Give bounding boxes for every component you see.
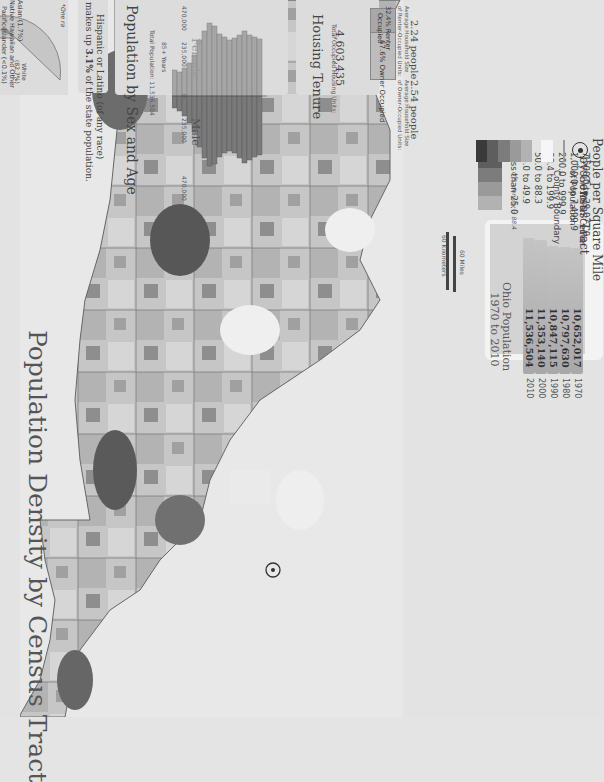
female-label: Female [189,38,202,79]
cleveland-metro [93,430,137,510]
rural-tract [230,470,270,505]
county-boundary-label: County Boundary [552,170,562,244]
pyramid-title: Population by Sex and Age [124,5,140,195]
pop-year-2010: 2010 [525,378,534,398]
pop-year-1970: 1970 [573,378,582,398]
pop-year-2000: 2000 [537,378,546,398]
pop-value-2010: 11,536,504 [524,308,535,368]
pop-year-1980: 1980 [561,378,570,398]
columbus-metro [150,204,210,276]
hispanic-text: Hispanic or Latino (of any race) makes u… [83,2,105,182]
race-footnote: *One ra [60,4,67,27]
mean-center-legend-icon [572,142,588,158]
swatch-200 [478,168,502,182]
rural-tract [220,305,280,355]
scale-km-label: 60 Kilometers [441,235,448,277]
swatch-88 [478,182,502,196]
white-label: White (82.7%) [14,60,28,84]
pop-value-1970: 10,652,017 [572,308,583,368]
pyramid-axis-470k-left: 470,000 [181,176,188,201]
pyramid-top-label: 85+ Years [161,42,168,72]
housing-total-value: 4,603,435 [333,30,346,86]
rural-tract [325,208,375,252]
pop-value-1990: 10,847,115 [548,308,559,368]
housing-title: Housing Tenure [310,14,325,119]
pop-value-1980: 10,797,630 [560,308,571,368]
us-density-note: U.S. density is 88.4 [511,172,518,230]
renter-size-value: 2.24 people [409,20,420,79]
pyramid-axis-235k-left: 235,000 [181,118,188,143]
pop-year-1990: 1990 [549,378,558,398]
map-title: Population Density by Census Tract [23,330,52,782]
mean-center-icon [266,563,280,577]
pyramid-axis-470k-right: 470,000 [181,6,188,31]
county-boundary-swatch [563,140,565,162]
male-label: Male [189,118,202,146]
scale-mi-bar [453,236,456,292]
owner-label: 67.6% Owner Occupied [378,40,386,122]
swatch-class-3 [498,140,509,162]
scale-mi-label: 60 Miles [459,250,466,275]
swatch-class-7 [541,140,553,162]
swatch-class-4 [510,140,521,162]
swatch-class-5 [521,140,532,162]
pyramid-axis-0: 0 [181,94,188,98]
renter-label: 32.4% Renter Occupied [376,6,392,50]
toledo-metro [57,650,93,710]
pop-value-2000: 11,353,140 [536,308,547,368]
owner-size-value: 2.54 people [409,80,420,139]
pyramid-total: Total Population: 11,536,504 [149,30,156,116]
rural-tract [276,470,324,530]
mean-center-label: Ohio Mean Center of Population [568,170,588,247]
swatch-class-1 [476,140,487,162]
swatch-class-2 [487,140,498,162]
swatch-50 [478,196,502,210]
density-ramp [476,140,532,162]
ohio-pop-title: Ohio Population 1970 to 2010 [488,282,512,371]
akron-metro [155,495,205,545]
pyramid-axis-235k-right: 235,000 [181,42,188,67]
